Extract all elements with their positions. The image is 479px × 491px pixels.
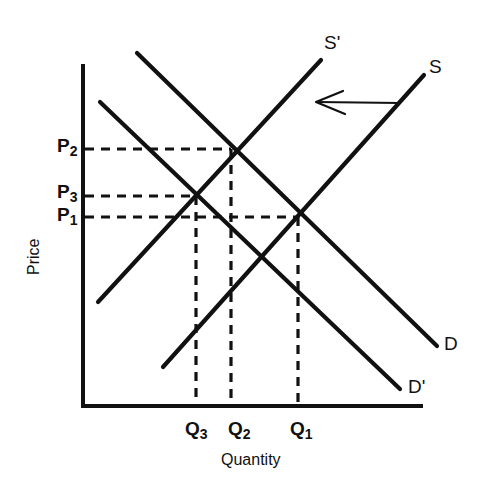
quantity-tick-q1: Q1 <box>290 419 313 438</box>
curve-label-d: D <box>444 334 458 353</box>
y-axis-title: Price <box>26 239 42 275</box>
quantity-tick-q3-sub: 3 <box>200 426 208 442</box>
shift-arrow-icon <box>316 91 400 114</box>
x-axis-title: Quantity <box>221 452 281 468</box>
demand-curve-d-prime <box>100 102 400 389</box>
supply-demand-figure: S' S D D' P2 P3 P1 Q3 Q2 Q1 Price Quanti… <box>0 0 479 491</box>
curve-label-s: S <box>429 57 442 76</box>
curve-label-d-prime: D' <box>408 377 425 396</box>
price-tick-p3-base: P <box>57 181 70 202</box>
quantity-tick-q2-base: Q <box>228 418 243 439</box>
quantity-tick-q3-base: Q <box>185 418 200 439</box>
price-tick-p1-sub: 1 <box>70 212 78 228</box>
price-tick-p1: P1 <box>57 205 77 224</box>
price-tick-p2-base: P <box>57 135 70 156</box>
price-tick-p3-sub: 3 <box>70 189 78 205</box>
price-tick-p3: P3 <box>57 182 77 201</box>
price-tick-p2: P2 <box>57 136 77 155</box>
quantity-tick-q1-sub: 1 <box>305 426 313 442</box>
quantity-tick-q1-base: Q <box>290 418 305 439</box>
price-tick-p1-base: P <box>57 204 70 225</box>
quantity-tick-q2: Q2 <box>228 419 251 438</box>
quantity-tick-q2-sub: 2 <box>243 426 251 442</box>
quantity-tick-q3: Q3 <box>185 419 208 438</box>
supply-curve-s-prime <box>98 60 321 302</box>
curve-label-s-prime: S' <box>324 33 340 52</box>
price-tick-p2-sub: 2 <box>70 143 78 159</box>
